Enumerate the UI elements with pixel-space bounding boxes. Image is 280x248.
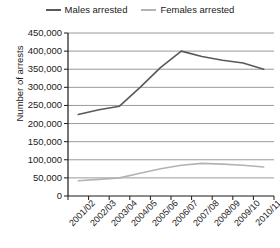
y-axis-tick-labels: 450,000400,000350,000300,000250,000200,0… [0, 33, 62, 196]
y-tick-label: 200,000 [0, 119, 62, 129]
legend-swatch-females-line-icon [141, 9, 156, 11]
y-tick-label: 50,000 [0, 173, 62, 183]
gridlines [68, 33, 274, 178]
legend-swatch-males-line-icon [46, 9, 61, 11]
arrests-line-chart: Males arrested Females arrested Number o… [0, 0, 280, 248]
legend-entry-females: Females arrested [141, 5, 234, 15]
plot-area [68, 33, 274, 196]
plot-svg [68, 33, 274, 196]
y-tick-label: 450,000 [0, 28, 62, 38]
y-tick-label: 350,000 [0, 64, 62, 74]
y-tick-label: 250,000 [0, 100, 62, 110]
y-tick-label: 100,000 [0, 155, 62, 165]
legend-label-females: Females arrested [160, 5, 234, 15]
y-tick-label: 300,000 [0, 82, 62, 92]
y-tick-label: 150,000 [0, 137, 62, 147]
chart-legend: Males arrested Females arrested [0, 2, 280, 18]
y-tick-label: 0 [0, 191, 62, 201]
series-lines [78, 51, 263, 181]
y-tick-label: 400,000 [0, 46, 62, 56]
legend-entry-males: Males arrested [46, 5, 128, 15]
series-line [78, 51, 263, 114]
legend-label-males: Males arrested [65, 5, 128, 15]
x-axis-tick-labels: 2001/022002/032003/042004/052005/062006/… [68, 198, 274, 248]
